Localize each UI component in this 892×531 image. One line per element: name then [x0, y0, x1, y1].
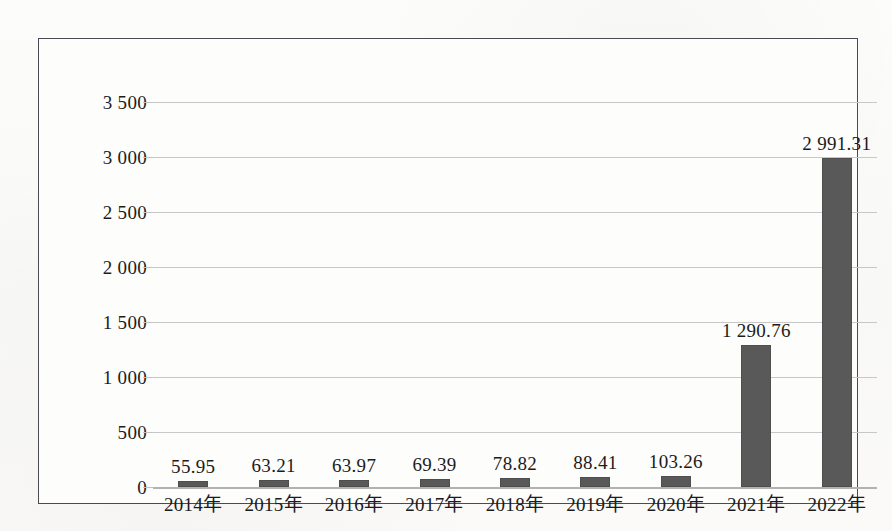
gridline — [153, 157, 877, 158]
bar-group: 103.26 — [636, 476, 716, 487]
bar-value-label: 69.39 — [412, 455, 456, 474]
y-axis-tick-label: 1 000 — [51, 368, 147, 387]
y-axis-tick-mark — [143, 377, 153, 378]
y-axis-tick-mark — [143, 322, 153, 323]
x-axis-tick-label: 2016年 — [325, 495, 384, 514]
bar-wrapper: 2 991.31 — [822, 158, 852, 487]
bar-wrapper: 69.39 — [420, 479, 450, 487]
x-axis: 2014年2015年2016年2017年2018年2019年2020年2021年… — [153, 495, 877, 529]
bar-wrapper: 88.41 — [580, 477, 610, 487]
plot-area: 55.9563.2163.9769.3978.8288.41103.261 29… — [153, 102, 877, 487]
bar-value-label: 63.21 — [252, 456, 296, 475]
bar-group: 63.97 — [314, 480, 394, 487]
chart-figure-frame: 05001 0001 5002 0002 5003 0003 500 55.95… — [38, 38, 858, 504]
x-axis-tick-label: 2014年 — [164, 495, 223, 514]
bar-group: 55.95 — [153, 481, 233, 487]
bar-group: 69.39 — [394, 479, 474, 487]
bar[interactable] — [822, 158, 852, 487]
y-axis-tick-label: 1 500 — [51, 313, 147, 332]
bar[interactable] — [259, 480, 289, 487]
bar-group: 78.82 — [475, 478, 555, 487]
gridline — [153, 267, 877, 268]
x-axis-tick-label: 2015年 — [244, 495, 303, 514]
x-axis-baseline — [153, 487, 877, 489]
bar[interactable] — [580, 477, 610, 487]
x-axis-tick-label: 2018年 — [486, 495, 545, 514]
y-axis-tick-label: 500 — [51, 423, 147, 442]
bar-group: 1 290.76 — [716, 345, 796, 487]
bar-wrapper: 103.26 — [661, 476, 691, 487]
bar-wrapper: 63.21 — [259, 480, 289, 487]
bar[interactable] — [420, 479, 450, 487]
bar-wrapper: 78.82 — [500, 478, 530, 487]
y-axis-tick-mark — [143, 487, 153, 488]
bar-value-label: 103.26 — [649, 452, 703, 471]
y-axis-tick-label: 2 500 — [51, 203, 147, 222]
bar-group: 2 991.31 — [797, 158, 877, 487]
y-axis-tick-mark — [143, 267, 153, 268]
y-axis-tick-mark — [143, 102, 153, 103]
bar-wrapper: 1 290.76 — [741, 345, 771, 487]
bar-wrapper: 63.97 — [339, 480, 369, 487]
bar[interactable] — [500, 478, 530, 487]
y-axis: 05001 0001 5002 0002 5003 0003 500 — [39, 102, 147, 487]
bar-value-label: 63.97 — [332, 456, 376, 475]
bar-value-label: 1 290.76 — [722, 321, 791, 340]
x-axis-tick-label: 2019年 — [566, 495, 625, 514]
bar-value-label: 88.41 — [573, 453, 617, 472]
bar-wrapper: 55.95 — [178, 481, 208, 487]
x-axis-tick-label: 2020年 — [647, 495, 706, 514]
bar[interactable] — [661, 476, 691, 487]
gridline — [153, 212, 877, 213]
y-axis-tick-label: 0 — [51, 478, 147, 497]
bar[interactable] — [741, 345, 771, 487]
bar-group: 63.21 — [233, 480, 313, 487]
gridline — [153, 102, 877, 103]
bar-group: 88.41 — [555, 477, 635, 487]
x-axis-tick-label: 2021年 — [727, 495, 786, 514]
bar[interactable] — [178, 481, 208, 487]
x-axis-tick-label: 2022年 — [808, 495, 867, 514]
y-axis-tick-mark — [143, 212, 153, 213]
y-axis-tick-label: 3 500 — [51, 93, 147, 112]
y-axis-tick-label: 2 000 — [51, 258, 147, 277]
y-axis-tick-mark — [143, 432, 153, 433]
y-axis-tick-label: 3 000 — [51, 148, 147, 167]
bar-value-label: 55.95 — [171, 457, 215, 476]
x-axis-tick-label: 2017年 — [405, 495, 464, 514]
bar-value-label: 78.82 — [493, 454, 537, 473]
y-axis-tick-mark — [143, 157, 153, 158]
bar[interactable] — [339, 480, 369, 487]
bar-value-label: 2 991.31 — [802, 134, 871, 153]
